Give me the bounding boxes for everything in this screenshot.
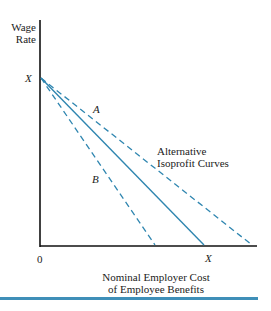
curve-b-label: B: [92, 173, 99, 185]
annotation: Alternative Isoprofit Curves: [157, 145, 229, 169]
bottom-rule: [0, 297, 258, 300]
curve-a-label: A: [93, 103, 100, 115]
x-axis-label-line1: Nominal Employer Cost: [94, 271, 218, 283]
x-intercept-label: X: [205, 252, 212, 264]
origin-label: 0: [37, 253, 43, 265]
annotation-line1: Alternative: [157, 145, 229, 157]
x-axis-label: Nominal Employer Cost of Employee Benefi…: [94, 271, 218, 295]
y-axis-label-line1: Wage: [8, 21, 36, 33]
y-axis-label: Wage Rate: [8, 21, 36, 45]
annotation-line2: Isoprofit Curves: [157, 157, 229, 169]
x-axis-label-line2: of Employee Benefits: [94, 283, 218, 295]
y-intercept-label: X: [25, 72, 32, 84]
y-axis-label-line2: Rate: [8, 33, 36, 45]
